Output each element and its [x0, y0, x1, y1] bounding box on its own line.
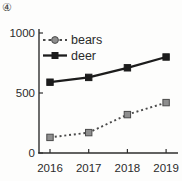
x-tick-label: 2016	[37, 162, 63, 174]
legend-bears-marker	[52, 37, 59, 44]
legend-bears-label: bears	[71, 33, 102, 47]
x-tick-label: 2017	[76, 162, 102, 174]
legend-deer-marker	[52, 52, 59, 59]
deer-line	[50, 57, 166, 82]
bears-marker	[163, 99, 169, 105]
bears-marker	[124, 111, 130, 117]
deer-marker	[124, 65, 130, 71]
population-line-chart: 050010002016201720182019deerbears	[0, 0, 182, 181]
bears-marker	[47, 134, 53, 140]
figure-panel: ④ 050010002016201720182019deerbears	[0, 0, 182, 181]
x-tick-label: 2018	[115, 162, 141, 174]
x-tick-label: 2019	[153, 162, 179, 174]
bears-line	[50, 103, 166, 138]
deer-marker	[47, 79, 53, 85]
y-tick-label: 500	[16, 87, 35, 99]
y-tick-label: 1000	[9, 27, 35, 39]
deer-marker	[86, 74, 92, 80]
bears-marker	[86, 129, 92, 135]
y-tick-label: 0	[29, 147, 35, 159]
legend-deer-label: deer	[71, 49, 96, 63]
deer-marker	[163, 54, 169, 60]
